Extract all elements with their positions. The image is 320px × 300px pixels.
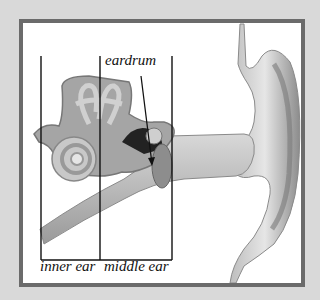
label-middle-ear: middle ear bbox=[104, 258, 169, 275]
ear-illustration bbox=[23, 23, 301, 283]
diagram-frame bbox=[19, 19, 305, 287]
label-eardrum: eardrum bbox=[105, 52, 156, 69]
cochlea-shape bbox=[52, 137, 96, 181]
label-inner-ear: inner ear bbox=[40, 258, 95, 275]
eardrum-shape bbox=[152, 144, 172, 188]
